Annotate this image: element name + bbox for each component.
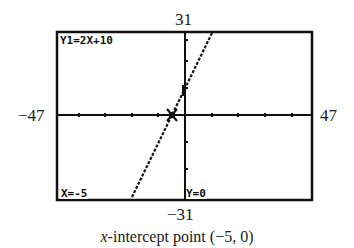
equation-label: Y1=2X+10 <box>60 35 113 46</box>
figure-caption: x-intercept point (−5, 0) <box>0 229 354 245</box>
caption-variable: x <box>101 228 108 245</box>
trace-x-value: X=-5 <box>61 188 88 199</box>
graph-screen <box>0 0 354 248</box>
caption-text: -intercept point (−5, 0) <box>108 228 254 245</box>
trace-y-value: Y=0 <box>186 188 206 199</box>
